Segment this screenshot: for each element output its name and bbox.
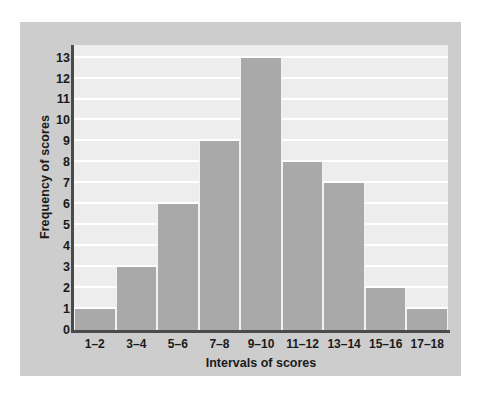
y-tick-label: 0 [42,324,70,337]
x-axis-tick-labels: 1–23–45–67–89–1011–1213–1415–1617–18 [74,337,448,357]
x-tick-label: 11–12 [286,337,319,351]
bar [199,141,241,330]
y-tick-label: 8 [42,156,70,169]
bar [406,309,448,330]
y-axis-line [71,45,74,333]
bar [365,288,407,330]
y-tick-label: 3 [42,261,70,274]
x-tick-label: 7–8 [209,337,229,351]
bar [323,183,365,330]
bar [116,267,158,330]
y-axis-tick-labels: 012345678910111213 [42,22,70,376]
x-tick-label: 9–10 [248,337,275,351]
plot-area [74,45,448,330]
bars-layer [74,45,448,330]
x-tick-label: 17–18 [411,337,444,351]
y-tick-label: 7 [42,177,70,190]
histogram-figure-panel: Frequency of scores 012345678910111213 1… [20,22,461,376]
x-tick-label: 13–14 [327,337,360,351]
y-tick-label: 4 [42,240,70,253]
y-tick-label: 1 [42,303,70,316]
bar [74,309,116,330]
y-tick-label: 9 [42,135,70,148]
x-tick-label: 5–6 [168,337,188,351]
y-tick-label: 11 [42,93,70,106]
bar [240,58,282,330]
x-axis-title: Intervals of scores [74,356,448,370]
x-tick-label: 1–2 [85,337,105,351]
x-axis-line [71,330,450,333]
y-tick-label: 10 [42,114,70,127]
bar [282,162,324,330]
x-tick-label: 3–4 [126,337,146,351]
y-tick-label: 6 [42,198,70,211]
x-tick-label: 15–16 [369,337,402,351]
bar [157,204,199,330]
y-tick-label: 12 [42,72,70,85]
y-tick-label: 5 [42,219,70,232]
y-tick-label: 13 [42,51,70,64]
y-tick-label: 2 [42,282,70,295]
